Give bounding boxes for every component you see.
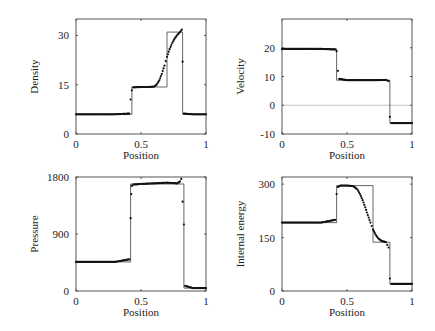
y-tick-label: 0 — [64, 285, 70, 297]
x-tick-label: 0 — [73, 138, 79, 150]
y-tick-label: 30 — [58, 29, 70, 41]
y-axis-label: Velocity — [234, 58, 246, 95]
exact-solution-line — [76, 32, 206, 114]
y-tick-label: 900 — [53, 228, 70, 240]
y-axis-label: Internal energy — [234, 200, 246, 267]
y-tick-label: 1800 — [47, 171, 70, 183]
panel-velocity: 00.51-1001020PositionVelocity — [234, 19, 415, 161]
x-axis-label: Position — [329, 306, 366, 318]
x-tick-label: 1 — [203, 295, 209, 307]
numerical-points — [75, 28, 207, 115]
x-axis-label: Position — [123, 306, 160, 318]
plot-frame — [282, 19, 412, 134]
x-tick-label: 0 — [279, 295, 285, 307]
exact-solution-line — [282, 186, 412, 284]
x-axis-label: Position — [123, 149, 160, 161]
numerical-points — [75, 178, 207, 289]
x-axis-label: Position — [329, 149, 366, 161]
exact-solution-line — [282, 49, 412, 123]
y-tick-label: -10 — [260, 128, 275, 140]
panel-pressure: 00.5109001800PositionPressure — [28, 171, 209, 318]
plot-frame — [76, 177, 206, 291]
panel-density: 00.5101530PositionDensity — [28, 19, 209, 161]
x-tick-label: 0 — [279, 138, 285, 150]
y-tick-label: 150 — [259, 232, 276, 244]
y-tick-label: 0 — [64, 128, 70, 140]
numerical-points — [281, 185, 413, 286]
plot-frame — [282, 177, 412, 291]
panel-internal-energy: 00.510150300PositionInternal energy — [234, 177, 415, 318]
y-axis-label: Density — [28, 59, 40, 94]
x-tick-label: 0 — [73, 295, 79, 307]
y-axis-label: Pressure — [28, 215, 40, 252]
x-tick-label: 1 — [409, 295, 415, 307]
x-tick-label: 1 — [409, 138, 415, 150]
plot-frame — [76, 19, 206, 134]
y-tick-label: 0 — [270, 99, 276, 111]
numerical-points — [281, 48, 413, 124]
exact-solution-line — [76, 184, 206, 288]
y-tick-label: 300 — [259, 178, 276, 190]
y-tick-label: 20 — [264, 42, 276, 54]
figure: 00.5101530PositionDensity00.51-1001020Po… — [0, 0, 435, 331]
y-tick-label: 15 — [58, 79, 70, 91]
x-tick-label: 1 — [203, 138, 209, 150]
y-tick-label: 0 — [270, 285, 276, 297]
y-tick-label: 10 — [264, 71, 276, 83]
